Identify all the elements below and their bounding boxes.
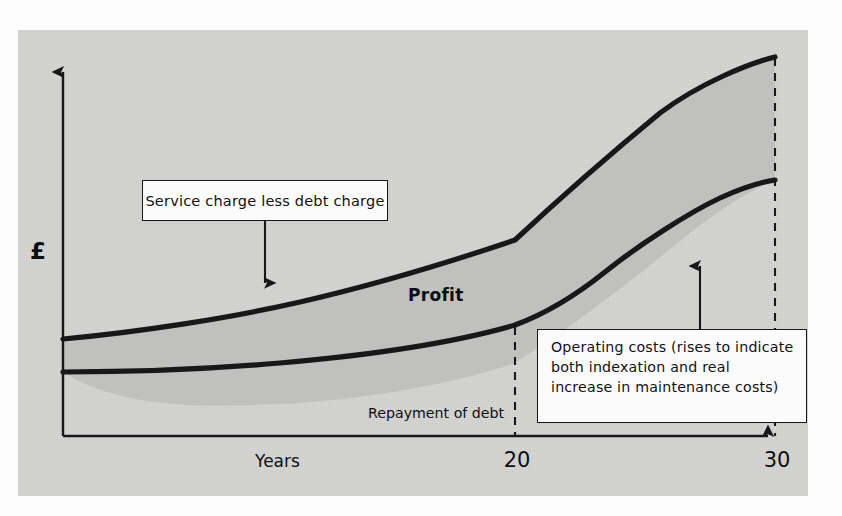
y-axis-label: £ xyxy=(30,238,46,264)
repayment-of-debt-label: Repayment of debt xyxy=(368,405,504,421)
chart-plot-area xyxy=(0,0,842,516)
chart-figure: £ Profit Repayment of debt Years 20 30 S… xyxy=(0,0,842,516)
x-tick-label-30: 30 xyxy=(747,448,807,472)
x-tick-label-20: 20 xyxy=(487,448,547,472)
service-charge-callout-text: Service charge less debt charge xyxy=(145,193,384,209)
service-charge-callout-box: Service charge less debt charge xyxy=(142,180,388,221)
operating-costs-callout-line-2: both indexation and real xyxy=(551,357,794,377)
profit-band-label: Profit xyxy=(408,285,464,305)
operating-costs-callout-line-1: Operating costs (rises to indicate xyxy=(551,337,794,357)
operating-costs-callout-box: Operating costs (rises to indicate both … xyxy=(537,329,807,423)
operating-costs-callout-line-3: increase in maintenance costs) xyxy=(551,377,794,397)
x-axis-title: Years xyxy=(255,451,300,471)
